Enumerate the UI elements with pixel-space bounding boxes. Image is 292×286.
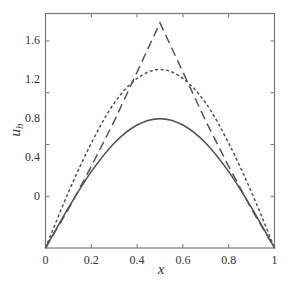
- x-axis-label: x: [157, 261, 165, 277]
- series-long-dashed: [46, 23, 275, 248]
- y-tick-label: 1.6: [25, 33, 40, 47]
- plot-series: [46, 23, 275, 248]
- y-tick-label: 0.4: [25, 150, 40, 164]
- x-tick-label: 0.8: [221, 253, 236, 267]
- y-axis-ticks: 00.40.81.21.6: [25, 33, 275, 203]
- x-tick-label: 0: [43, 253, 49, 267]
- x-tick-label: 1: [272, 253, 278, 267]
- x-tick-label: 0.6: [175, 253, 190, 267]
- y-axis-label: uh: [7, 123, 25, 137]
- x-tick-label: 0.2: [84, 253, 99, 267]
- x-axis-ticks: 00.20.40.60.81: [43, 14, 278, 268]
- series-dotted: [46, 69, 275, 248]
- y-tick-label: 0.8: [25, 111, 40, 125]
- series-solid: [46, 119, 275, 248]
- y-tick-label: 0: [34, 189, 40, 203]
- y-tick-label: 1.2: [25, 72, 40, 86]
- x-tick-label: 0.4: [130, 253, 145, 267]
- chart: 00.20.40.60.81 00.40.81.21.6 x uh: [0, 0, 292, 286]
- plot-frame: [46, 14, 275, 249]
